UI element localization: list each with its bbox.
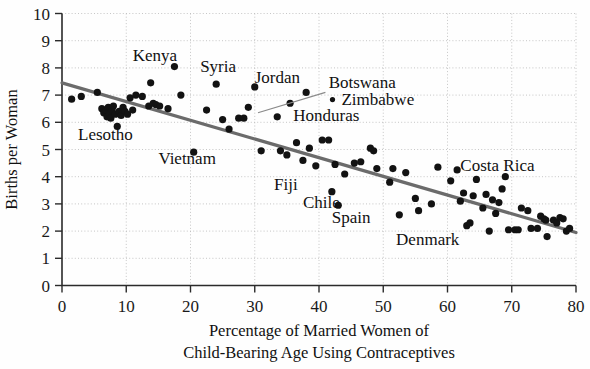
data-point xyxy=(68,96,75,103)
country-label-spain: Spain xyxy=(332,208,371,227)
data-point xyxy=(386,179,393,186)
x-tick-label: 10 xyxy=(118,297,135,316)
data-point xyxy=(213,81,220,88)
data-point xyxy=(373,165,380,172)
data-point xyxy=(473,176,480,183)
data-point xyxy=(527,225,534,232)
data-point xyxy=(524,207,531,214)
data-point xyxy=(312,162,319,169)
data-point xyxy=(543,233,550,240)
data-point xyxy=(534,225,541,232)
data-point xyxy=(389,165,396,172)
x-axis-title-line2: Child-Bearing Age Using Contraceptives xyxy=(183,343,455,362)
zimbabwe-bullet-marker xyxy=(330,97,335,102)
data-point xyxy=(434,164,441,171)
data-point xyxy=(225,126,232,133)
data-point xyxy=(518,204,525,211)
country-label-denmark: Denmark xyxy=(396,230,460,249)
country-label-syria: Syria xyxy=(200,57,236,76)
y-tick-label: 7 xyxy=(42,86,51,105)
y-axis-title: Births per Woman xyxy=(2,89,21,209)
data-point xyxy=(412,195,419,202)
x-tick-label: 60 xyxy=(439,297,456,316)
x-tick-label: 30 xyxy=(246,297,263,316)
data-point xyxy=(78,93,85,100)
data-point xyxy=(129,106,136,113)
data-point xyxy=(466,219,473,226)
data-point xyxy=(293,139,300,146)
data-point xyxy=(357,158,364,165)
x-tick-label: 0 xyxy=(58,297,67,316)
data-point xyxy=(132,92,139,99)
data-point xyxy=(499,185,506,192)
y-tick-label: 8 xyxy=(42,59,51,78)
data-point xyxy=(325,136,332,143)
data-point xyxy=(515,226,522,233)
data-point xyxy=(489,196,496,203)
y-tick-label: 3 xyxy=(42,195,51,214)
data-point xyxy=(457,198,464,205)
data-point xyxy=(203,106,210,113)
data-point xyxy=(331,161,338,168)
x-tick-label: 70 xyxy=(503,297,520,316)
data-point xyxy=(447,177,454,184)
data-point xyxy=(110,102,117,109)
data-point xyxy=(415,207,422,214)
y-tick-label: 10 xyxy=(33,5,50,24)
data-point xyxy=(482,191,489,198)
data-point xyxy=(94,89,101,96)
x-tick-label: 80 xyxy=(568,297,585,316)
data-point xyxy=(402,169,409,176)
y-tick-label: 5 xyxy=(42,141,51,160)
data-point xyxy=(274,113,281,120)
country-label-vietnam: Vietnam xyxy=(158,149,216,168)
x-axis-tick-labels: 01020304050607080 xyxy=(58,297,585,316)
data-point xyxy=(177,92,184,99)
chart-canvas: KenyaSyriaJordanBotswanaZimbabweHonduras… xyxy=(0,0,590,369)
y-tick-label: 9 xyxy=(42,32,51,51)
data-point xyxy=(164,105,171,112)
data-point xyxy=(492,210,499,217)
data-point xyxy=(495,199,502,206)
scatter-plot-figure: KenyaSyriaJordanBotswanaZimbabweHonduras… xyxy=(0,0,590,369)
data-points xyxy=(68,63,573,240)
y-tick-label: 2 xyxy=(42,222,51,241)
data-point xyxy=(240,115,247,122)
x-tick-label: 40 xyxy=(311,297,328,316)
data-point xyxy=(560,215,567,222)
country-label-kenya: Kenya xyxy=(133,46,178,65)
y-tick-label: 1 xyxy=(42,249,51,268)
x-axis-title-line1: Percentage of Married Women of xyxy=(209,321,430,340)
data-point xyxy=(306,145,313,152)
data-point xyxy=(156,102,163,109)
x-tick-label: 20 xyxy=(182,297,199,316)
data-point xyxy=(245,104,252,111)
y-tick-label: 6 xyxy=(42,113,51,132)
data-point xyxy=(470,192,477,199)
x-tick-label: 50 xyxy=(375,297,392,316)
data-point xyxy=(341,170,348,177)
data-point xyxy=(542,217,549,224)
country-label-honduras: Honduras xyxy=(293,106,359,125)
data-point xyxy=(370,147,377,154)
data-point xyxy=(505,226,512,233)
data-point xyxy=(283,151,290,158)
data-point xyxy=(479,204,486,211)
data-point xyxy=(351,160,358,167)
data-point xyxy=(299,157,306,164)
data-point xyxy=(486,228,493,235)
data-point xyxy=(396,211,403,218)
data-point xyxy=(139,93,146,100)
data-point xyxy=(219,116,226,123)
data-point xyxy=(147,79,154,86)
country-label-costa-rica: Costa Rica xyxy=(460,156,535,175)
y-tick-label: 0 xyxy=(42,277,51,296)
data-point xyxy=(277,147,284,154)
data-point xyxy=(428,200,435,207)
y-tick-label: 4 xyxy=(42,168,51,187)
country-label-fiji: Fiji xyxy=(274,175,298,194)
data-point xyxy=(319,136,326,143)
data-point xyxy=(566,225,573,232)
data-point xyxy=(258,147,265,154)
country-label-jordan: Jordan xyxy=(255,68,301,87)
